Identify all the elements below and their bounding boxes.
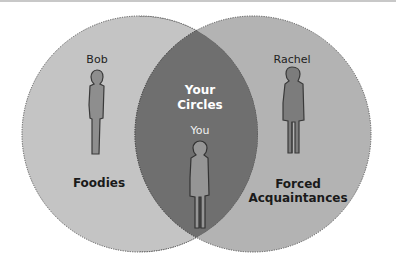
foodies-label: Foodies <box>64 176 134 190</box>
forced-acquaintances-label: Forced Acquaintances <box>248 177 348 205</box>
you-label: You <box>180 124 220 137</box>
bob-label: Bob <box>82 53 112 66</box>
your-circles-title-line1: Your <box>170 83 230 98</box>
your-circles-title-line2: Circles <box>170 98 230 113</box>
rachel-label: Rachel <box>270 53 314 66</box>
forced-acquaintances-line1: Forced <box>248 177 348 191</box>
your-circles-title: Your Circles <box>170 83 230 113</box>
forced-acquaintances-line2: Acquaintances <box>248 191 348 205</box>
